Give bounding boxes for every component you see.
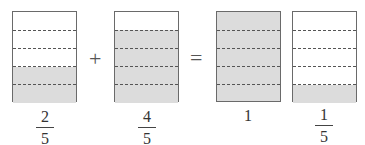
divider-line: [115, 84, 178, 85]
divider-line: [13, 30, 76, 31]
plus-operator: +: [89, 48, 101, 70]
denominator: 5: [30, 128, 60, 145]
divider-line: [115, 30, 178, 31]
divider-line: [293, 30, 356, 31]
fraction-label-box2: 4 5: [132, 109, 162, 145]
divider-line: [293, 66, 356, 67]
divider-line: [115, 66, 178, 67]
whole-label-box3: 1: [233, 108, 263, 124]
numerator: 1: [309, 107, 339, 125]
numerator: 2: [30, 109, 60, 127]
shaded-part: [13, 85, 76, 103]
denominator: 5: [309, 126, 339, 145]
denominator: 5: [132, 128, 162, 145]
divider-line: [13, 84, 76, 85]
divider-line: [13, 48, 76, 49]
equals-operator: =: [190, 47, 202, 69]
divider-line: [293, 84, 356, 85]
fraction-box-whole: [216, 11, 281, 102]
fraction-box-4-fifths: [114, 11, 179, 102]
shaded-part: [115, 48, 178, 66]
divider-line: [217, 48, 280, 49]
fraction-box-2-fifths: [12, 11, 77, 102]
fraction-label-box4: 1 5: [309, 107, 339, 145]
divider-line: [217, 66, 280, 67]
shaded-part: [115, 30, 178, 48]
shaded-part: [115, 85, 178, 103]
divider-line: [115, 48, 178, 49]
shaded-part: [13, 67, 76, 85]
shaded-part: [115, 67, 178, 85]
fraction-box-1-fifth: [292, 11, 357, 102]
divider-line: [217, 84, 280, 85]
numerator: 4: [132, 109, 162, 127]
divider-line: [217, 30, 280, 31]
fraction-label-box1: 2 5: [30, 109, 60, 145]
divider-line: [293, 48, 356, 49]
divider-line: [13, 66, 76, 67]
shaded-part: [293, 85, 356, 103]
